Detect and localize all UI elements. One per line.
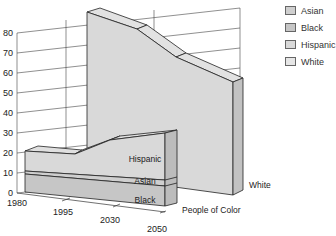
legend-item-black: Black bbox=[285, 19, 336, 36]
y-tick: 30 bbox=[3, 128, 13, 138]
x-tick: 1980 bbox=[7, 198, 27, 208]
depth-label-people-of-color: People of Color bbox=[182, 205, 241, 215]
x-tick: 2030 bbox=[100, 215, 120, 225]
legend-item-white: White bbox=[285, 53, 336, 70]
legend-swatch-icon bbox=[285, 40, 296, 49]
legend-label: Hispanic bbox=[301, 40, 336, 50]
x-tick: 1995 bbox=[53, 207, 73, 217]
legend-swatch-icon bbox=[285, 6, 296, 15]
legend-swatch-icon bbox=[285, 57, 296, 66]
x-tick: 2050 bbox=[147, 224, 167, 234]
y-tick: 0 bbox=[8, 188, 13, 198]
y-tick: 20 bbox=[3, 148, 13, 158]
y-tick: 10 bbox=[3, 168, 13, 178]
legend-label: White bbox=[301, 57, 324, 67]
label-black: Black bbox=[135, 195, 157, 205]
label-hispanic: Hispanic bbox=[129, 154, 162, 164]
y-tick: 50 bbox=[3, 88, 13, 98]
label-asian: Asian bbox=[134, 176, 156, 186]
y-tick: 40 bbox=[3, 108, 13, 118]
legend-label: Black bbox=[301, 23, 323, 33]
legend: Asian Black Hispanic White bbox=[285, 2, 336, 70]
y-tick: 70 bbox=[3, 48, 13, 58]
legend-label: Asian bbox=[301, 6, 324, 16]
depth-label-white: White bbox=[249, 180, 271, 190]
y-tick: 80 bbox=[3, 28, 13, 38]
legend-swatch-icon bbox=[285, 23, 296, 32]
y-tick: 60 bbox=[3, 68, 13, 78]
legend-item-hispanic: Hispanic bbox=[285, 36, 336, 53]
legend-item-asian: Asian bbox=[285, 2, 336, 19]
y-axis-labels: 0 10 20 30 40 50 60 70 80 bbox=[3, 28, 13, 198]
